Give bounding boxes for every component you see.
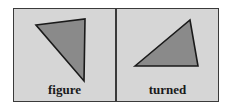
turned-label: turned — [117, 82, 218, 98]
figure-label: figure — [14, 82, 115, 98]
original-triangle — [36, 19, 85, 81]
turned-triangle — [135, 20, 198, 66]
